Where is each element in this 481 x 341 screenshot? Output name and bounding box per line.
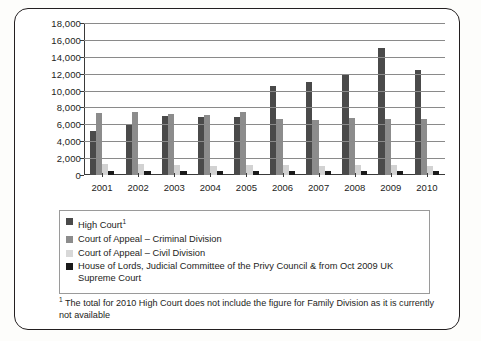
gridline: [84, 23, 445, 24]
y-axis-tick-mark: [80, 91, 84, 92]
y-axis-tick-label: 16,000: [51, 34, 81, 45]
x-axis-tick: 2002: [120, 177, 156, 195]
x-axis-tick-label: 2007: [308, 182, 329, 193]
legend-swatch-icon: [66, 236, 73, 243]
y-axis-tick-mark: [80, 124, 84, 125]
y-axis-tick-mark: [80, 158, 84, 159]
x-axis-tick: 2001: [84, 177, 120, 195]
legend-item-label: High Court1: [78, 216, 126, 232]
x-axis-tick: 2007: [301, 177, 337, 195]
x-axis-tick-label: 2002: [128, 182, 149, 193]
x-axis-tick-mark: [210, 173, 211, 177]
y-axis-tick-mark: [80, 40, 84, 41]
bar-group: [409, 23, 445, 175]
legend-swatch-icon: [66, 218, 73, 225]
y-axis-tick-mark: [80, 141, 84, 142]
legend-item[interactable]: Court of Appeal – Civil Division: [66, 248, 423, 260]
bar-group: [264, 23, 300, 175]
legend-item[interactable]: High Court1: [66, 216, 423, 232]
bar: [108, 171, 114, 175]
x-axis-tick-label: 2001: [91, 182, 112, 193]
y-axis-tick-label: 14,000: [51, 51, 81, 62]
x-axis-tick-mark: [102, 173, 103, 177]
bar: [253, 171, 259, 175]
x-axis-tick-label: 2005: [236, 182, 257, 193]
y-axis-tick-mark: [80, 107, 84, 108]
x-axis-tick: 2010: [409, 177, 445, 195]
bar: [217, 171, 223, 175]
bar-group: [156, 23, 192, 175]
bar: [361, 171, 367, 175]
bar: [325, 171, 331, 175]
chart-plot-area: 18,00016,00014,00012,00010,0008,0006,000…: [37, 23, 445, 205]
y-axis-tick-label: 10,000: [51, 85, 81, 96]
x-axis-tick: 2008: [337, 177, 373, 195]
y-axis-tick-mark: [80, 74, 84, 75]
x-axis-tick-mark: [283, 173, 284, 177]
bar: [397, 171, 403, 175]
x-axis-label-list: 2001200220032004200520062007200820092010: [84, 177, 445, 195]
x-axis-tick-mark: [427, 173, 428, 177]
x-axis-tick-label: 2003: [164, 182, 185, 193]
gridline: [84, 141, 445, 142]
x-axis-tick-label: 2010: [416, 182, 437, 193]
footnote-marker: 1: [59, 296, 63, 303]
legend-swatch-icon: [66, 263, 73, 270]
legend-item-label: Court of Appeal – Criminal Division: [78, 234, 222, 246]
chart-card: 18,00016,00014,00012,00010,0008,0006,000…: [14, 8, 460, 330]
x-axis-tick-mark: [355, 173, 356, 177]
y-axis-tick-mark: [80, 175, 84, 176]
chart-legend: High Court1Court of Appeal – Criminal Di…: [59, 210, 430, 294]
y-axis-label-list: 18,00016,00014,00012,00010,0008,0006,000…: [37, 23, 81, 175]
bar: [144, 171, 150, 175]
y-axis-tick-label: 6,000: [57, 119, 81, 130]
gridline: [84, 57, 445, 58]
x-axis-tick: 2003: [156, 177, 192, 195]
y-axis-tick-mark: [80, 23, 84, 24]
x-axis-tick-label: 2009: [380, 182, 401, 193]
y-axis-tick-label: 2,000: [57, 153, 81, 164]
bar-group: [337, 23, 373, 175]
footnote-text: The total for 2010 High Court does not i…: [59, 298, 434, 320]
x-axis-tick-label: 2004: [200, 182, 221, 193]
y-axis-tick-label: 12,000: [51, 68, 81, 79]
bar-group: [120, 23, 156, 175]
x-axis-tick-mark: [138, 173, 139, 177]
gridline: [84, 107, 445, 108]
x-axis-tick: 2009: [373, 177, 409, 195]
bar-group: [373, 23, 409, 175]
gridline: [84, 91, 445, 92]
legend-item[interactable]: House of Lords, Judicial Committee of th…: [66, 261, 423, 284]
gridline: [84, 74, 445, 75]
y-axis-tick-label: 18,000: [51, 18, 81, 29]
chart-footnote: 1 The total for 2010 High Court does not…: [59, 294, 434, 321]
x-axis-tick: 2006: [264, 177, 300, 195]
chart-grid-region: [84, 23, 445, 175]
x-axis-tick-mark: [174, 173, 175, 177]
x-axis-tick-label: 2006: [272, 182, 293, 193]
legend-item-label: Court of Appeal – Civil Division: [78, 248, 205, 260]
y-axis-tick-mark: [80, 57, 84, 58]
legend-swatch-icon: [66, 250, 73, 257]
bar-group: [84, 23, 120, 175]
x-axis-tick: 2005: [228, 177, 264, 195]
gridline: [84, 40, 445, 41]
legend-item[interactable]: Court of Appeal – Criminal Division: [66, 234, 423, 246]
x-axis-tick-mark: [246, 173, 247, 177]
bar-groups-container: [84, 23, 445, 175]
y-axis-tick-label: 4,000: [57, 136, 81, 147]
x-axis-tick: 2004: [192, 177, 228, 195]
x-axis-tick-label: 2008: [344, 182, 365, 193]
x-axis-tick-mark: [319, 173, 320, 177]
bar-group: [192, 23, 228, 175]
legend-item-label: House of Lords, Judicial Committee of th…: [78, 261, 423, 284]
y-axis-tick-label: 8,000: [57, 102, 81, 113]
gridline: [84, 124, 445, 125]
x-axis-tick-mark: [391, 173, 392, 177]
gridline: [84, 158, 445, 159]
bar: [180, 171, 186, 175]
legend-footnote-marker: 1: [122, 218, 126, 225]
bar: [433, 171, 439, 175]
bar-group: [228, 23, 264, 175]
bar: [289, 171, 295, 175]
